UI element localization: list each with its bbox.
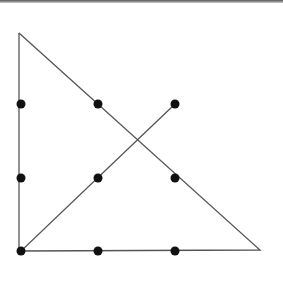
dot	[94, 100, 103, 109]
nine-dot-diagram	[0, 0, 283, 282]
dot	[94, 247, 103, 256]
dot	[17, 100, 26, 109]
dot	[94, 174, 103, 183]
dot	[171, 100, 180, 109]
dot	[171, 247, 180, 256]
dot	[171, 174, 180, 183]
dot	[17, 247, 26, 256]
solution-path	[19, 33, 260, 251]
dot	[17, 174, 26, 183]
